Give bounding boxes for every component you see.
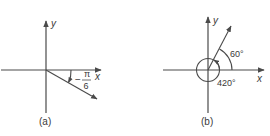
angle-arc-a bbox=[69, 70, 72, 83]
angle-numerator-a: π bbox=[84, 69, 90, 79]
x-label-b: x bbox=[256, 73, 263, 84]
y-label-b: y bbox=[212, 15, 219, 26]
y-label-a: y bbox=[50, 18, 57, 29]
angle-denominator-a: 6 bbox=[84, 81, 89, 91]
panel-a: x y − π 6 (a) bbox=[1, 18, 101, 127]
angle-sign-a: − bbox=[75, 74, 81, 85]
caption-b: (b) bbox=[201, 116, 213, 127]
figure-canvas: x y − π 6 (a) x y 60° 420° (b) bbox=[0, 0, 270, 136]
angle-label-420: 420° bbox=[217, 78, 236, 88]
caption-a: (a) bbox=[39, 116, 51, 127]
panel-b: x y 60° 420° (b) bbox=[163, 15, 264, 127]
ray-b bbox=[208, 26, 231, 70]
figure-angles: x y − π 6 (a) x y 60° 420° (b) bbox=[0, 0, 270, 136]
x-label-a: x bbox=[94, 71, 101, 82]
angle-arrow-420 bbox=[214, 60, 220, 70]
angle-label-60: 60° bbox=[230, 49, 244, 59]
